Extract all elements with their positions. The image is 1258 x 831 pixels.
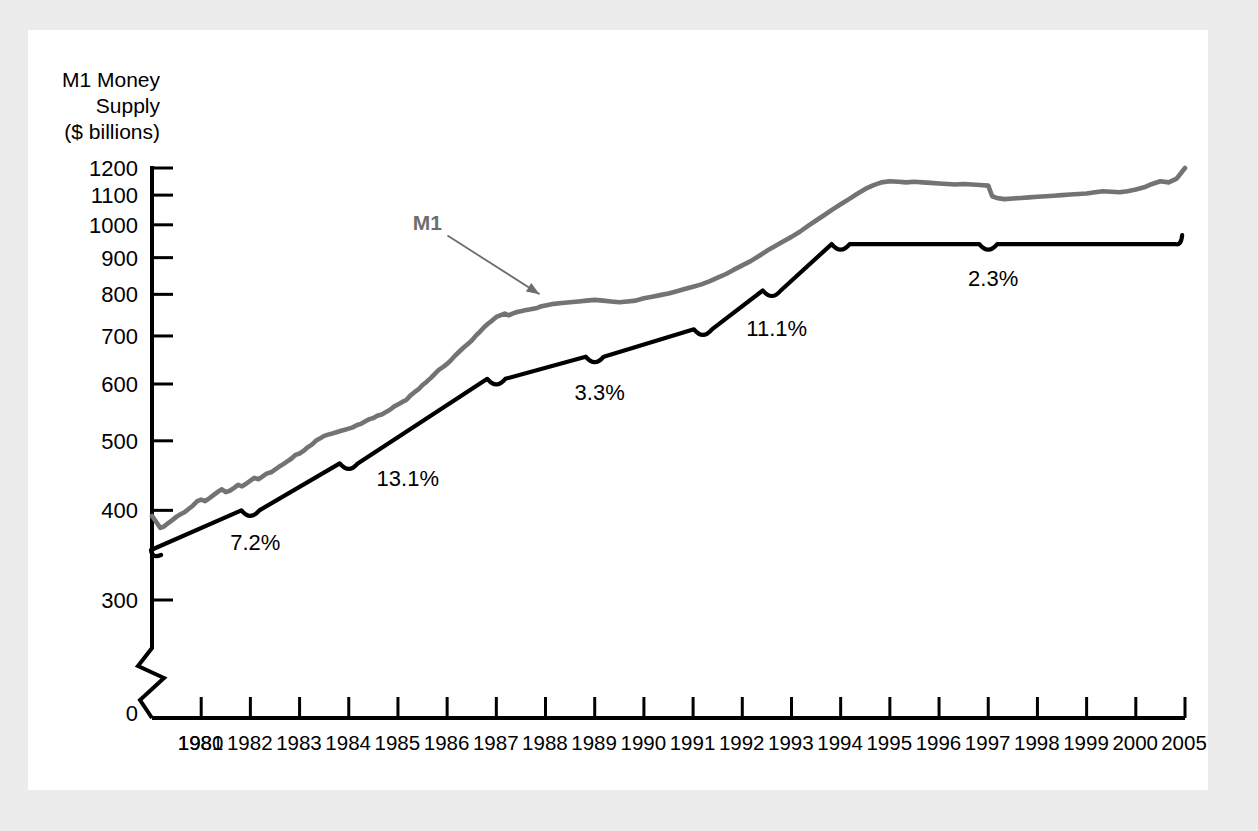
m1-callout-arrow-head <box>526 283 540 294</box>
y-axis-title-line-2: Supply <box>96 94 161 117</box>
x-tick-label: 1999 <box>1063 731 1109 754</box>
x-tick-label: 1997 <box>965 731 1011 754</box>
annotations-group: 7.2%13.1%3.3%11.1%2.3%M1 <box>230 211 1018 556</box>
m1-series-line <box>152 168 1185 528</box>
figure-root: M1 Money Supply ($ billions) 30040050060… <box>0 0 1258 831</box>
y-tick-label: 300 <box>101 588 138 613</box>
x-tick-label: 1989 <box>571 731 617 754</box>
x-tick-label: 1987 <box>473 731 519 754</box>
growth-rate-2: 13.1% <box>377 466 439 491</box>
y-tick-label: 800 <box>101 282 138 307</box>
y-tick-label: 700 <box>101 324 138 349</box>
y-axis-title-line-3: ($ billions) <box>64 120 160 143</box>
m1-callout-arrow-line <box>447 236 539 295</box>
x-tick-label: 2005 <box>1161 731 1207 754</box>
growth-rate-1: 7.2% <box>230 530 280 555</box>
x-tick-label: 1983 <box>276 731 322 754</box>
x-tick-label: 1986 <box>424 731 470 754</box>
y-axis: 3004005006007008009001000110012000 <box>89 156 173 726</box>
growth-rate-4: 11.1% <box>746 316 807 341</box>
y-axis-title-line-1: M1 Money <box>62 68 161 91</box>
y-axis-zero-label: 0 <box>126 701 138 726</box>
y-tick-label: 900 <box>101 246 138 271</box>
x-tick-label: 1992 <box>719 731 765 754</box>
y-axis-title: M1 Money Supply ($ billions) <box>62 68 161 143</box>
x-tick-label: 2000 <box>1112 731 1158 754</box>
x-tick-label: 1998 <box>1014 731 1060 754</box>
data-series-group <box>151 168 1185 556</box>
x-tick-label: 1994 <box>817 731 863 754</box>
y-tick-label: 1000 <box>89 213 138 238</box>
x-tick-label: 1995 <box>866 731 912 754</box>
growth-rate-5: 2.3% <box>968 266 1018 291</box>
x-tick-label: 1996 <box>916 731 962 754</box>
x-tick-label: 1985 <box>375 731 421 754</box>
y-tick-label: 400 <box>101 498 138 523</box>
growth-rate-3: 3.3% <box>575 380 625 405</box>
m1-money-supply-chart: M1 Money Supply ($ billions) 30040050060… <box>0 0 1258 831</box>
series-label-m1: M1 <box>413 211 442 234</box>
x-tick-label: 1981 <box>178 731 224 754</box>
y-tick-label: 1200 <box>89 156 138 181</box>
x-tick-label: 1993 <box>768 731 814 754</box>
x-tick-label: 1990 <box>621 731 667 754</box>
x-tick-label: 1982 <box>227 731 273 754</box>
y-tick-label: 600 <box>101 372 138 397</box>
trend-series-line <box>151 235 1182 556</box>
x-tick-label: 1984 <box>325 731 371 754</box>
x-tick-label: 1988 <box>522 731 568 754</box>
y-tick-label: 500 <box>101 429 138 454</box>
x-axis: 1980198119821983198419851986198719881989… <box>152 697 1207 754</box>
x-tick-label: 1991 <box>670 731 716 754</box>
y-tick-label: 1100 <box>91 183 138 208</box>
